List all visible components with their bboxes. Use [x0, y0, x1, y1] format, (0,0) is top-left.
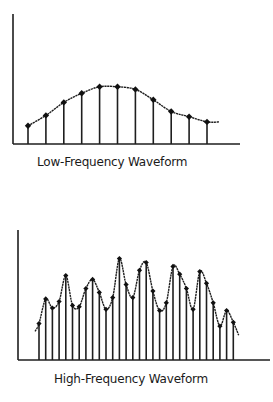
sample-point — [97, 290, 102, 295]
sample-point — [184, 286, 189, 291]
sample-point — [36, 321, 41, 326]
high-frequency-panel: High-Frequency Waveform — [18, 230, 270, 386]
sample-point — [197, 269, 202, 274]
sample-point — [79, 90, 85, 96]
sample-point — [204, 281, 209, 286]
sample-point — [137, 268, 142, 273]
sample-point — [150, 289, 155, 294]
sample-point — [164, 300, 169, 305]
high-frequency-caption: High-Frequency Waveform — [54, 372, 208, 386]
sample-point — [110, 295, 115, 300]
sample-point — [191, 307, 196, 312]
low-waveform-curve — [28, 86, 220, 126]
sample-point — [130, 295, 135, 300]
sample-point — [144, 260, 149, 265]
low-stems — [28, 87, 207, 144]
sample-point — [83, 286, 88, 291]
sample-point — [186, 114, 192, 120]
sample-point — [25, 123, 31, 129]
high-stems — [39, 259, 233, 360]
waveform-figure: Low-Frequency Waveform High-Frequency Wa… — [0, 0, 273, 402]
low-frequency-caption: Low-Frequency Waveform — [37, 155, 187, 169]
sample-point — [70, 303, 75, 308]
sample-point — [132, 86, 138, 92]
sample-point — [231, 320, 236, 325]
sample-point — [168, 108, 174, 114]
low-frequency-panel: Low-Frequency Waveform — [13, 14, 240, 169]
sample-point — [124, 282, 129, 287]
sample-point — [96, 84, 102, 90]
sample-point — [211, 300, 216, 305]
sample-point — [57, 299, 62, 304]
sample-point — [204, 119, 210, 125]
sample-point — [114, 84, 120, 90]
